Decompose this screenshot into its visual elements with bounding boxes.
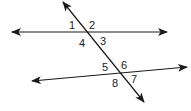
angle-label-6: 6 (121, 59, 127, 71)
angle-label-4: 4 (79, 37, 85, 49)
transversal (63, 2, 144, 102)
parallel-lines-diagram: 12435687 (0, 0, 191, 111)
angle-label-8: 8 (112, 77, 118, 89)
angle-label-1: 1 (69, 19, 75, 31)
angle-label-2: 2 (89, 19, 95, 31)
angle-label-5: 5 (102, 61, 108, 73)
angle-label-3: 3 (100, 35, 106, 47)
lower-line (32, 67, 187, 81)
angle-label-7: 7 (131, 73, 137, 85)
